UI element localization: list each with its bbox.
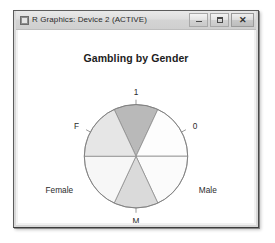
pie-sectors-group (84, 105, 187, 208)
pie-label-1: 1 (134, 88, 139, 97)
tick-mark-0 (182, 130, 186, 132)
desktop-background: R Graphics: Device 2 (ACTIVE) ✕ Gambling… (0, 0, 275, 243)
close-icon: ✕ (239, 17, 247, 24)
pie-label-f: F (74, 122, 79, 131)
minimize-icon (196, 21, 202, 22)
window-inner-frame: R Graphics: Device 2 (ACTIVE) ✕ Gambling… (14, 11, 258, 227)
window-titlebar[interactable]: R Graphics: Device 2 (ACTIVE) ✕ (16, 11, 256, 30)
pie-label-m: M (133, 217, 140, 223)
pie-label-female: Female (46, 186, 74, 195)
r-graphics-window: R Graphics: Device 2 (ACTIVE) ✕ Gambling… (13, 10, 259, 228)
pie-label-male: Male (199, 186, 217, 195)
maximize-button[interactable] (210, 13, 229, 27)
pie-chart-svg: 10MaleMFemaleF (18, 30, 254, 223)
plot-canvas: Gambling by Gender 10MaleMFemaleF (18, 30, 254, 223)
pie-label-0: 0 (193, 122, 198, 131)
maximize-icon (217, 17, 223, 23)
r-graphics-icon (20, 16, 29, 25)
tick-mark-f (86, 130, 90, 132)
minimize-button[interactable] (189, 13, 208, 27)
close-button[interactable]: ✕ (231, 13, 254, 27)
window-title: R Graphics: Device 2 (ACTIVE) (32, 15, 189, 25)
window-controls: ✕ (189, 13, 254, 27)
